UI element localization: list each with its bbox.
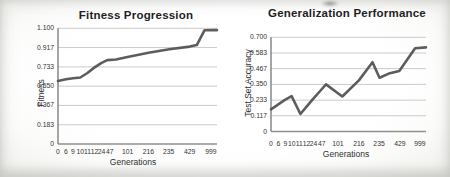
fitness-x-tick-label: 999	[196, 148, 226, 156]
accuracy-y-tick-label: 0.117	[227, 112, 267, 120]
fitness-y-tick-label: 0.367	[14, 101, 54, 109]
accuracy-y-tick-label: 0.700	[227, 33, 267, 41]
accuracy-y-tick-label: 0.583	[227, 49, 267, 57]
fitness-y-tick-label: 0.550	[14, 82, 54, 90]
accuracy-y-tick-label: 0.350	[227, 80, 267, 88]
fitness-y-tick-label: 0.183	[14, 121, 54, 129]
fitness-y-tick-label: 1.100	[14, 24, 54, 32]
accuracy-y-tick-label: 0	[227, 128, 267, 136]
generalization-chart-title: Generalization Performance	[262, 7, 432, 19]
accuracy-y-tick-label: 0.467	[227, 65, 267, 73]
accuracy-x-tick-label: 999	[405, 140, 435, 148]
fitness-data-line	[58, 30, 217, 81]
fitness-x-axis-label: Generations	[93, 157, 173, 167]
fitness-chart-title: Fitness Progression	[61, 9, 211, 21]
accuracy-y-tick-label: 0.233	[227, 96, 267, 104]
fitness-y-tick-label: 0.733	[14, 63, 54, 71]
fitness-y-tick-label: 0.917	[14, 44, 54, 52]
figure-photo: Fitness Progression Generalization Perfo…	[0, 0, 450, 177]
accuracy-data-line	[271, 47, 426, 114]
accuracy-x-axis-label: Generations	[306, 149, 386, 159]
